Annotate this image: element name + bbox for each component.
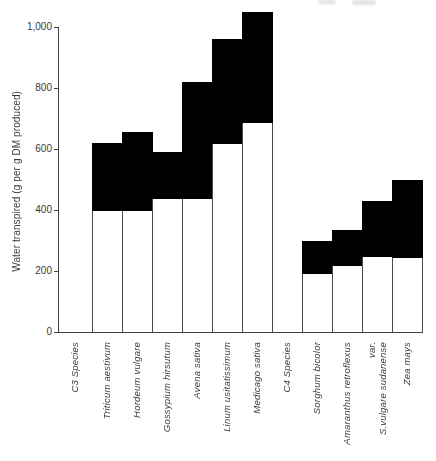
x-axis-label: var. S.vulgare sudanense bbox=[367, 342, 388, 435]
y-tick-mark bbox=[54, 271, 59, 272]
y-tick-mark bbox=[54, 210, 59, 211]
range-bar bbox=[362, 201, 393, 332]
x-label-slot: var. S.vulgare sudanense bbox=[362, 342, 392, 461]
range-bar bbox=[182, 82, 213, 332]
x-axis-label: Sorghum bicolor bbox=[312, 342, 323, 414]
range-bar bbox=[392, 180, 423, 333]
y-tick-label: 0 bbox=[18, 326, 52, 338]
x-label-slot: Medicago sativa bbox=[242, 342, 272, 461]
x-label-slot: Linum usitatissimum bbox=[212, 342, 242, 461]
bar-upper-range bbox=[92, 143, 123, 211]
y-tick-label: 200 bbox=[18, 265, 52, 277]
y-tick-mark bbox=[54, 88, 59, 89]
range-bar bbox=[92, 143, 123, 332]
range-bar bbox=[302, 241, 333, 333]
scan-artifact bbox=[352, 0, 376, 5]
bar-upper-range bbox=[392, 180, 423, 259]
x-axis-line bbox=[58, 332, 423, 333]
range-bar bbox=[242, 12, 273, 332]
range-bar bbox=[122, 132, 153, 332]
x-axis-label: Amaranthus retroflexus bbox=[342, 342, 353, 445]
x-group-label: C4 Species bbox=[282, 342, 293, 393]
range-bar bbox=[152, 152, 183, 332]
bar-upper-range bbox=[332, 230, 363, 266]
x-axis-label: Zea mays bbox=[402, 342, 413, 385]
x-axis-label: Gossypium hirsutum bbox=[162, 342, 173, 432]
x-label-slot: Sorghum bicolor bbox=[302, 342, 332, 461]
bar-upper-range bbox=[302, 241, 333, 274]
bar-upper-range bbox=[182, 82, 213, 199]
x-axis-label: Linum usitatissimum bbox=[222, 342, 233, 432]
x-label-slot: Triticum aestivum bbox=[92, 342, 122, 461]
x-axis-label: Hordeum vulgare bbox=[132, 342, 143, 418]
x-axis-label: Avena sativa bbox=[192, 342, 203, 399]
x-label-slot: Amaranthus retroflexus bbox=[332, 342, 362, 461]
bar-upper-range bbox=[122, 132, 153, 211]
y-tick-label: 1,000 bbox=[18, 21, 52, 33]
y-tick-mark bbox=[54, 27, 59, 28]
x-label-slot: Zea mays bbox=[392, 342, 422, 461]
bar-upper-range bbox=[242, 12, 273, 123]
y-tick-label: 800 bbox=[18, 82, 52, 94]
y-tick-mark bbox=[54, 332, 59, 333]
y-axis-title: Water transpired (g per g DM produced) bbox=[11, 91, 22, 272]
x-axis-labels: C3 SpeciesTriticum aestivumHordeum vulga… bbox=[0, 342, 436, 461]
x-group-label-slot: C4 Species bbox=[272, 342, 302, 461]
y-axis-line bbox=[58, 27, 59, 333]
range-bar bbox=[332, 230, 363, 332]
y-tick-label: 400 bbox=[18, 204, 52, 216]
x-axis-label: Triticum aestivum bbox=[102, 342, 113, 419]
bar-upper-range bbox=[212, 39, 243, 144]
x-label-slot: Gossypium hirsutum bbox=[152, 342, 182, 461]
range-bar bbox=[212, 39, 243, 332]
x-axis-label: Medicago sativa bbox=[252, 342, 263, 414]
x-label-slot: Hordeum vulgare bbox=[122, 342, 152, 461]
bar-upper-range bbox=[362, 201, 393, 257]
scan-artifact bbox=[318, 0, 336, 4]
x-group-label-slot: C3 Species bbox=[58, 342, 92, 461]
y-tick-mark bbox=[54, 149, 59, 150]
water-transpiration-figure: Water transpired (g per g DM produced) 0… bbox=[0, 0, 436, 461]
bar-upper-range bbox=[152, 152, 183, 199]
x-label-slot: Avena sativa bbox=[182, 342, 212, 461]
x-group-label: C3 Species bbox=[70, 342, 81, 393]
y-tick-label: 600 bbox=[18, 143, 52, 155]
